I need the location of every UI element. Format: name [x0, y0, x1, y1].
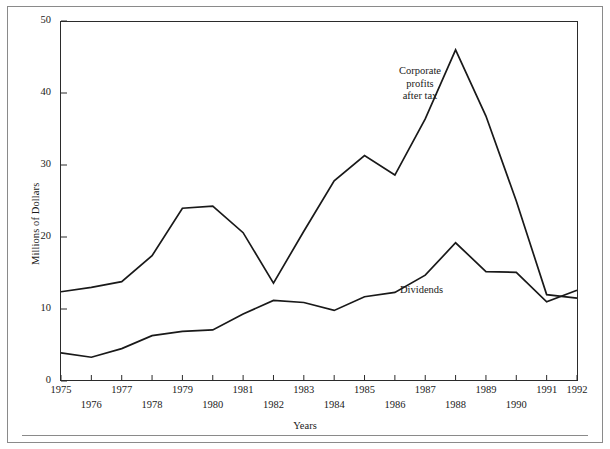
- x-tick-label-1987: 1987: [408, 384, 442, 395]
- x-tick-label-1979: 1979: [165, 384, 199, 395]
- x-tick-label-1988: 1988: [439, 399, 473, 410]
- y-tick-label-40: 40: [29, 86, 51, 97]
- y-tick-label-50: 50: [29, 14, 51, 25]
- x-tick-label-1985: 1985: [348, 384, 382, 395]
- x-tick-label-1984: 1984: [317, 399, 351, 410]
- y-tick-label-30: 30: [29, 158, 51, 169]
- y-axis-title: Millions of Dollars: [30, 183, 41, 265]
- x-tick-label-1982: 1982: [256, 399, 290, 410]
- x-axis-title: Years: [0, 420, 610, 431]
- x-tick-label-1980: 1980: [196, 399, 230, 410]
- y-tick-label-20: 20: [29, 230, 51, 241]
- series-line-corporate-profits-after-tax: [61, 50, 577, 298]
- x-tick-label-1975: 1975: [44, 384, 78, 395]
- chart-canvas: [0, 0, 610, 449]
- x-tick-label-1978: 1978: [135, 399, 169, 410]
- x-tick-label-1990: 1990: [499, 399, 533, 410]
- x-tick-label-1986: 1986: [378, 399, 412, 410]
- x-tick-label-1977: 1977: [105, 384, 139, 395]
- figure-page: Millions of Dollars 01020304050 19751976…: [0, 0, 610, 449]
- x-tick-label-1976: 1976: [74, 399, 108, 410]
- series-line-dividends: [61, 243, 577, 357]
- y-tick-label-10: 10: [29, 302, 51, 313]
- axis-tick-marks: [61, 21, 577, 381]
- annotation-corporate-profits: Corporate profits after tax: [381, 65, 459, 103]
- annotation-dividends: Dividends: [400, 284, 470, 297]
- x-tick-label-1992: 1992: [560, 384, 594, 395]
- x-tick-label-1989: 1989: [469, 384, 503, 395]
- x-tick-label-1983: 1983: [287, 384, 321, 395]
- x-tick-label-1991: 1991: [530, 384, 564, 395]
- x-tick-label-1981: 1981: [226, 384, 260, 395]
